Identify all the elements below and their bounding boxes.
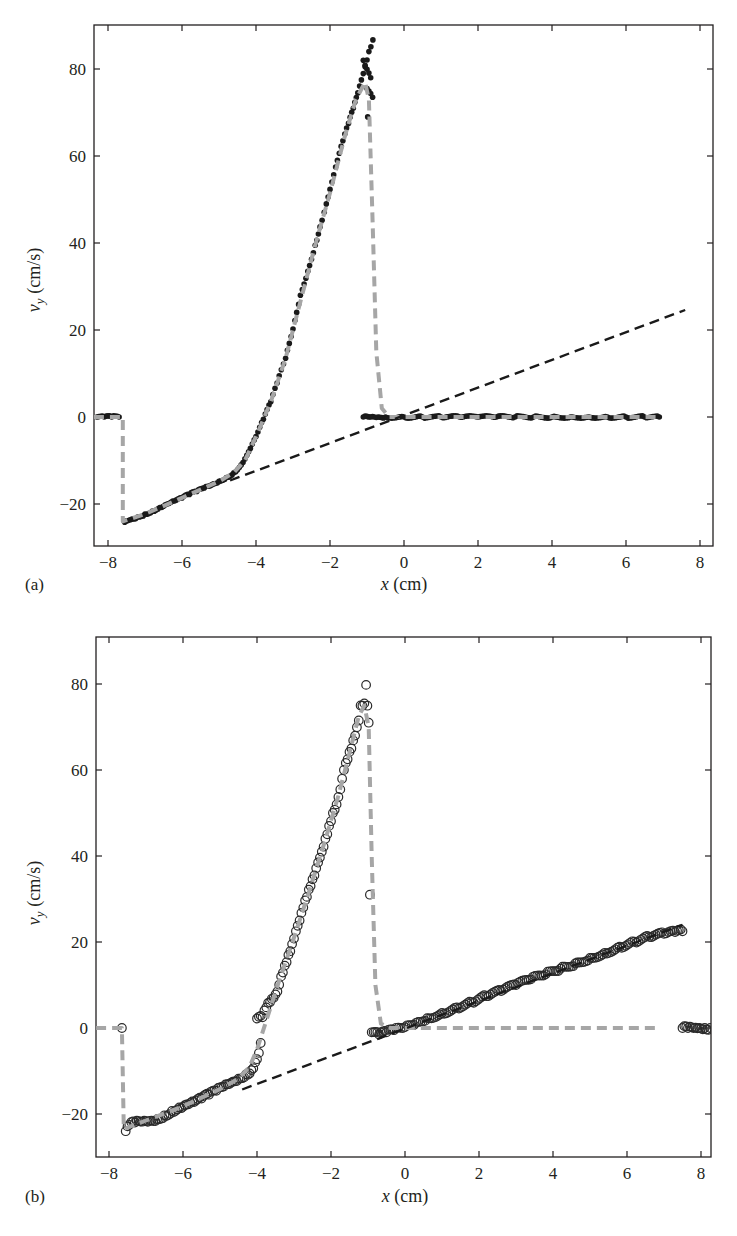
x-tick-label: 8 bbox=[697, 1164, 706, 1183]
y-tick-label: 20 bbox=[71, 933, 88, 952]
y-tick-label: 40 bbox=[71, 847, 88, 866]
data-point bbox=[283, 356, 289, 362]
plot-area bbox=[94, 37, 685, 525]
data-point bbox=[324, 201, 330, 207]
y-tick-label: 80 bbox=[69, 60, 86, 79]
panel-label: (a) bbox=[25, 575, 44, 594]
x-tick-label: 0 bbox=[400, 553, 409, 572]
y-axis-label: vy (cm/s) bbox=[24, 248, 47, 312]
data-markers bbox=[94, 37, 662, 525]
x-tick-label: 6 bbox=[622, 553, 631, 572]
y-tick-label: 40 bbox=[69, 234, 86, 253]
model-fit-curve bbox=[96, 706, 657, 1130]
x-tick-label: 2 bbox=[474, 553, 483, 572]
data-point bbox=[359, 77, 365, 83]
data-point bbox=[287, 341, 293, 347]
data-point bbox=[294, 310, 300, 316]
data-point bbox=[657, 414, 663, 420]
panel-b-chart: −8−6−4−202468−20020406080vy (cm/s)x (cm)… bbox=[24, 637, 715, 1207]
y-tick-label: 0 bbox=[80, 1019, 89, 1038]
plot-area bbox=[96, 681, 715, 1136]
plot-frame bbox=[96, 637, 711, 1157]
y-tick-label: 20 bbox=[69, 321, 86, 340]
data-point bbox=[327, 187, 333, 193]
x-axis-label: x (cm) bbox=[381, 1186, 428, 1207]
y-axis-label-unit: (cm/s) bbox=[24, 248, 45, 298]
x-tick-label: −6 bbox=[174, 1164, 192, 1183]
y-axis-ticks: −20020406080 bbox=[59, 60, 713, 514]
data-point bbox=[307, 263, 313, 269]
y-axis-label-var: v bbox=[24, 917, 44, 925]
x-axis-label: x (cm) bbox=[380, 574, 427, 595]
y-axis-label-unit: (cm/s) bbox=[24, 861, 45, 911]
figure: −8−6−4−202468−20020406080vy (cm/s)x (cm)… bbox=[0, 0, 737, 1236]
x-tick-label: 2 bbox=[475, 1164, 484, 1183]
plot-frame bbox=[94, 25, 713, 546]
x-tick-label: −8 bbox=[99, 553, 117, 572]
x-tick-label: −6 bbox=[173, 553, 191, 572]
x-axis-ticks: −8−6−4−202468 bbox=[99, 25, 704, 572]
data-point bbox=[361, 71, 367, 77]
data-point bbox=[368, 44, 374, 50]
x-tick-label: 4 bbox=[549, 1164, 558, 1183]
y-tick-label: −20 bbox=[59, 495, 86, 514]
data-point bbox=[368, 75, 374, 81]
linear-reference-line bbox=[230, 310, 685, 481]
model-fit-curve bbox=[94, 82, 659, 521]
x-tick-label: −4 bbox=[247, 553, 266, 572]
x-tick-label: −8 bbox=[100, 1164, 118, 1183]
y-tick-label: 60 bbox=[71, 761, 88, 780]
panel-a-chart: −8−6−4−202468−20020406080vy (cm/s)x (cm)… bbox=[24, 25, 713, 595]
y-tick-label: 80 bbox=[71, 675, 88, 694]
data-point bbox=[370, 95, 376, 101]
x-tick-label: 8 bbox=[696, 553, 705, 572]
data-markers bbox=[118, 681, 715, 1136]
y-tick-label: 0 bbox=[78, 408, 87, 427]
x-tick-label: −4 bbox=[248, 1164, 267, 1183]
x-tick-label: 4 bbox=[548, 553, 557, 572]
y-tick-label: 60 bbox=[69, 147, 86, 166]
y-axis-ticks: −20020406080 bbox=[61, 675, 711, 1124]
data-point bbox=[362, 681, 371, 690]
data-point bbox=[366, 49, 372, 55]
x-tick-label: 6 bbox=[623, 1164, 632, 1183]
y-axis-label: vy (cm/s) bbox=[24, 861, 47, 925]
y-axis-label-var: v bbox=[24, 304, 44, 312]
data-point bbox=[361, 58, 367, 64]
y-tick-label: −20 bbox=[61, 1105, 88, 1124]
x-tick-label: 0 bbox=[401, 1164, 410, 1183]
panel-label: (b) bbox=[25, 1187, 45, 1206]
data-point bbox=[370, 37, 376, 43]
x-tick-label: −2 bbox=[321, 553, 339, 572]
x-tick-label: −2 bbox=[322, 1164, 340, 1183]
